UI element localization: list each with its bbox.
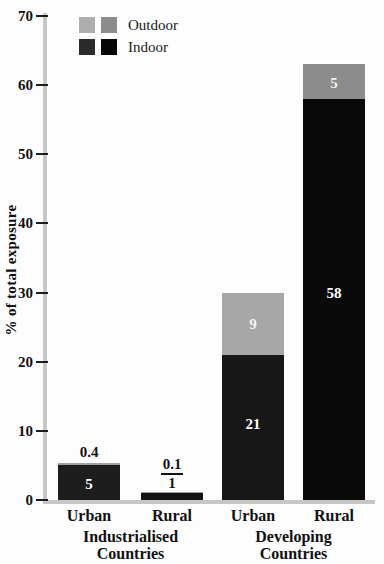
y-tick-label: 10 [0,422,33,440]
bar-value-label: 9 [222,315,284,333]
y-tick-mark [36,292,48,294]
chart-root: % of total exposure 01020304050607050.4U… [0,0,384,564]
fraction-numerator: 0.1 [161,457,184,475]
plot-area: 01020304050607050.4Urban0.11RuralIndustr… [0,0,384,564]
x-category-label-rural-industrialised: Rural [137,507,207,525]
y-tick-mark [36,361,48,363]
group-label-line2: Countries [56,545,206,562]
bar-value-label: 58 [303,284,365,302]
legend-label-outdoor: Outdoor [128,17,218,34]
legend-swatch-indoor-2 [101,39,117,55]
group-label-line2: Countries [219,545,369,562]
bar-value-fraction: 0.11 [152,457,192,491]
group-label-line1: Developing [219,528,369,545]
legend-swatch-indoor-1 [79,39,95,55]
bar-segment-outdoor-urban-industrialised [58,463,120,466]
y-tick-mark [36,430,48,432]
y-tick-label: 20 [0,353,33,371]
x-category-label-urban-developing: Urban [218,507,288,525]
legend: OutdoorIndoor [0,0,384,70]
y-tick-label: 60 [0,76,33,94]
x-axis-line [43,500,375,504]
y-tick-label: 30 [0,284,33,302]
y-tick-label: 40 [0,214,33,232]
x-category-label-urban-industrialised: Urban [54,507,124,525]
group-label-line1: Industrialised [56,528,206,545]
legend-swatch-outdoor-1 [79,17,95,33]
fraction-denominator: 1 [152,475,192,491]
y-tick-mark [36,153,48,155]
bar-segment-outdoor-rural-industrialised [141,492,203,493]
legend-label-indoor: Indoor [128,39,218,56]
bar-value-label: 21 [222,415,284,433]
y-tick-mark [36,499,48,501]
y-tick-mark [36,222,48,224]
y-tick-label: 50 [0,145,33,163]
y-tick-mark [36,84,48,86]
y-tick-label: 0 [0,491,33,509]
bar-value-label: 5 [303,74,365,92]
bar-value-label: 0.4 [58,443,120,461]
bar-segment-indoor-rural-industrialised [141,493,203,500]
bar-value-label: 5 [58,475,120,493]
legend-swatch-outdoor-2 [101,17,117,33]
x-category-label-rural-developing: Rural [299,507,369,525]
